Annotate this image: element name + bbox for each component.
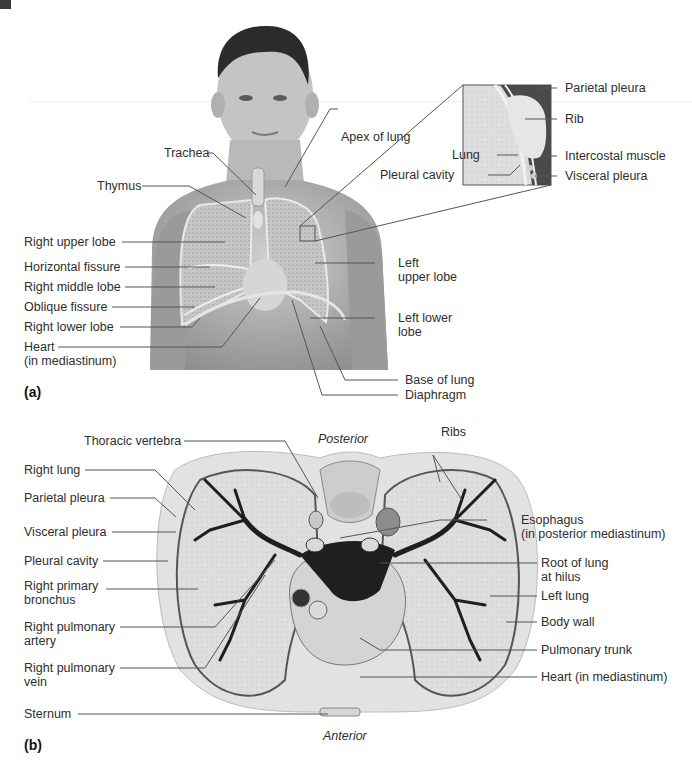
label-apex-of-lung: Apex of lung [341,130,411,144]
label-anterior: Anterior [323,729,367,743]
label-right-lung: Right lung [24,463,80,477]
label-right-pulmonary-vein-line2: vein [24,675,115,689]
panel-a-label: (a) [24,384,41,400]
label-inset-pleural-cavity: Pleural cavity [380,168,454,182]
label-right-primary-bronchus-line2: bronchus [24,593,98,607]
label-left-upper-lobe-line2: upper lobe [398,270,457,284]
label-left-lower-lobe-line2: lobe [398,325,452,339]
label-pleural-cavity: Pleural cavity [24,554,98,568]
label-oblique-fissure: Oblique fissure [24,300,107,314]
label-esophagus-line2: (in posterior mediastinum) [521,527,666,541]
label-inset-visceral-pleura: Visceral pleura [565,169,647,183]
label-pulmonary-trunk: Pulmonary trunk [541,643,632,657]
label-right-lower-lobe: Right lower lobe [24,320,114,334]
label-right-pulmonary-artery: Right pulmonary artery [24,620,115,648]
label-body-wall: Body wall [541,615,595,629]
label-heart-in-mediastinum: Heart (in mediastinum) [541,670,667,684]
label-thymus: Thymus [97,179,141,193]
label-left-lung: Left lung [541,589,589,603]
label-horizontal-fissure: Horizontal fissure [24,260,121,274]
label-right-primary-bronchus: Right primary bronchus [24,579,98,607]
label-inset-parietal-pleura: Parietal pleura [565,81,646,95]
label-ribs: Ribs [441,425,466,439]
label-sternum: Sternum [24,707,71,721]
label-right-pulmonary-vein-line1: Right pulmonary [24,661,115,675]
label-esophagus: Esophagus (in posterior mediastinum) [521,513,666,541]
label-heart-mediastinum: Heart (in mediastinum) [24,340,116,368]
label-inset-intercostal-muscle: Intercostal muscle [565,149,666,163]
label-thoracic-vertebra: Thoracic vertebra [84,434,181,448]
cross-section-illustration [157,451,538,716]
label-right-pulmonary-vein: Right pulmonary vein [24,661,115,689]
label-root-of-lung-line2: at hilus [541,570,608,584]
label-right-upper-lobe: Right upper lobe [24,235,116,249]
label-root-of-lung: Root of lung at hilus [541,556,608,584]
label-heart-line2: (in mediastinum) [24,354,116,368]
panel-b-label: (b) [24,737,42,753]
label-visceral-pleura: Visceral pleura [24,525,106,539]
label-posterior: Posterior [318,432,368,446]
label-right-pulmonary-artery-line1: Right pulmonary [24,620,115,634]
label-inset-rib: Rib [565,112,584,126]
label-diaphragm: Diaphragm [405,388,466,402]
label-heart-line1: Heart [24,340,116,354]
label-base-of-lung: Base of lung [405,373,475,387]
label-right-middle-lobe: Right middle lobe [24,280,121,294]
label-left-lower-lobe-line1: Left lower [398,311,452,325]
label-inset-lung: Lung [452,148,480,162]
label-right-pulmonary-artery-line2: artery [24,634,115,648]
label-root-of-lung-line1: Root of lung [541,556,608,570]
label-left-upper-lobe-line1: Left [398,256,457,270]
label-esophagus-line1: Esophagus [521,513,666,527]
label-parietal-pleura: Parietal pleura [24,491,105,505]
label-left-upper-lobe: Left upper lobe [398,256,457,284]
label-trachea: Trachea [164,146,209,160]
label-left-lower-lobe: Left lower lobe [398,311,452,339]
label-right-primary-bronchus-line1: Right primary [24,579,98,593]
